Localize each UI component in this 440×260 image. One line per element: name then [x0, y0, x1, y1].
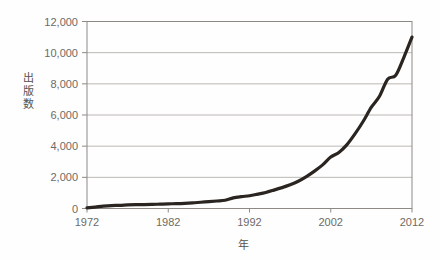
publications-line-chart: 02,0004,0006,0008,00010,00012,000 197219…	[0, 0, 440, 260]
x-tick-label: 1972	[75, 216, 99, 228]
x-tick-label: 1992	[237, 216, 261, 228]
y-tick-label: 2,000	[50, 171, 78, 183]
x-tick-label: 2002	[319, 216, 343, 228]
x-axis-title: 年	[238, 238, 249, 251]
chart-figure: 02,0004,0006,0008,00010,00012,000 197219…	[0, 0, 440, 260]
y-tick-label: 4,000	[50, 140, 78, 152]
y-axis-ticks: 02,0004,0006,0008,00010,00012,000	[44, 16, 87, 215]
publications-trend-line	[87, 37, 412, 208]
x-axis-ticks: 19721982199220022012	[75, 209, 424, 228]
y-tick-label: 10,000	[44, 47, 78, 59]
y-tick-label: 0	[72, 203, 78, 215]
y-tick-label: 8,000	[50, 78, 78, 90]
x-tick-label: 2012	[400, 216, 424, 228]
x-tick-label: 1982	[156, 216, 180, 228]
gridlines	[87, 53, 412, 178]
y-axis-title: 出版数	[23, 71, 34, 110]
y-tick-label: 12,000	[44, 16, 78, 28]
y-tick-label: 6,000	[50, 109, 78, 121]
